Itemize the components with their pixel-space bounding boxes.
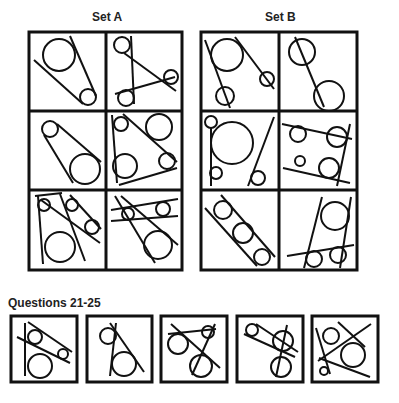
set-b-grid — [201, 32, 357, 270]
set-a-grid — [29, 32, 182, 270]
question-23[interactable] — [161, 316, 227, 382]
question-25[interactable] — [312, 316, 378, 382]
question-22[interactable] — [87, 316, 152, 382]
question-24[interactable] — [237, 316, 303, 382]
puzzle-figures — [0, 0, 399, 403]
question-21[interactable] — [11, 316, 77, 382]
